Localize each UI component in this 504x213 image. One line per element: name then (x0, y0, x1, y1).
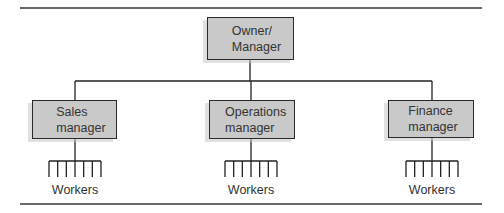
org-chart-diagram: Owner/ Manager Sales manager Operations … (0, 0, 504, 213)
sales-workers-label: Workers (35, 183, 115, 197)
owner-manager-label: Owner/ Manager (208, 23, 293, 55)
operations-manager-label: Operations manager (210, 104, 294, 136)
finance-workers-label: Workers (392, 183, 472, 197)
finance-manager-label: Finance manager (389, 103, 473, 135)
worker-rakes (49, 161, 458, 177)
owner-manager-box: Owner/ Manager (207, 17, 294, 60)
operations-manager-box: Operations manager (209, 100, 295, 139)
sales-manager-label: Sales manager (33, 104, 116, 136)
finance-manager-box: Finance manager (388, 100, 474, 138)
sales-manager-box: Sales manager (32, 100, 117, 139)
operations-workers-label: Workers (211, 183, 291, 197)
